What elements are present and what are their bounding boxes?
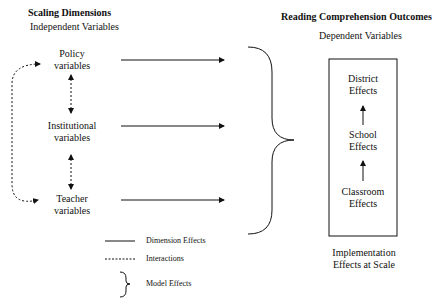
legend-model-effects-label: Model Effects xyxy=(146,279,191,289)
classroom-node-line2: Effects xyxy=(330,198,396,210)
caption-line2: Effects at Scale xyxy=(318,259,410,271)
teacher-node-line2: variables xyxy=(36,205,108,217)
legend-interactions-label: Interactions xyxy=(146,254,184,264)
right-section-title: Reading Comprehension Outcomes xyxy=(281,11,432,23)
district-node-line1: District xyxy=(330,73,396,85)
policy-variables-node: Policy variables xyxy=(36,48,108,72)
classroom-node-line1: Classroom xyxy=(330,186,396,198)
institutional-node-line2: variables xyxy=(36,132,108,144)
caption-line1: Implementation xyxy=(318,247,410,259)
institutional-node-line1: Institutional xyxy=(36,120,108,132)
left-section-title: Scaling Dimensions xyxy=(28,7,111,19)
legend-dimension-effects-label: Dimension Effects xyxy=(146,236,206,246)
legend-brace-symbol xyxy=(120,272,130,297)
school-effects-node: School Effects xyxy=(330,129,396,153)
right-section-subtitle: Dependent Variables xyxy=(319,30,402,42)
teacher-variables-node: Teacher variables xyxy=(36,193,108,217)
district-node-line2: Effects xyxy=(330,85,396,97)
policy-node-line1: Policy xyxy=(36,48,108,60)
policy-node-line2: variables xyxy=(36,60,108,72)
implementation-caption: Implementation Effects at Scale xyxy=(318,247,410,271)
school-node-line1: School xyxy=(330,129,396,141)
school-node-line2: Effects xyxy=(330,141,396,153)
diagram-canvas: Scaling Dimensions Independent Variables… xyxy=(0,0,434,301)
classroom-effects-node: Classroom Effects xyxy=(330,186,396,210)
district-effects-node: District Effects xyxy=(330,73,396,97)
institutional-variables-node: Institutional variables xyxy=(36,120,108,144)
model-effects-brace xyxy=(248,47,294,234)
left-section-subtitle: Independent Variables xyxy=(30,21,119,33)
teacher-node-line1: Teacher xyxy=(36,193,108,205)
